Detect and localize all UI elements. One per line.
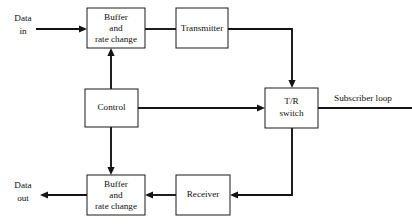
- label-subscriber-loop-text: Subscriber loop: [334, 93, 392, 103]
- label-data-in-line1: Data: [14, 13, 31, 23]
- node-control-label: Control: [97, 102, 126, 112]
- arrowhead-right: [257, 104, 265, 111]
- label-data-out-line1: Data: [14, 180, 31, 190]
- node-transmitter-label: Transmitter: [181, 23, 224, 33]
- edge-transmitter-to-tr-switch: [228, 29, 296, 88]
- node-transmitter[interactable]: Transmitter: [176, 8, 228, 48]
- label-data-in: Data in: [14, 13, 31, 36]
- node-receiver-label: Receiver: [187, 189, 220, 199]
- edge-data-in-to-buffer-top: [36, 25, 87, 32]
- node-buffer-top[interactable]: Buffer and rate change: [87, 8, 145, 48]
- arrowhead-left: [230, 191, 238, 198]
- arrowhead-left: [145, 191, 153, 198]
- arrowhead-down: [107, 167, 114, 175]
- edge-tr-switch-to-receiver: [230, 128, 292, 199]
- label-data-out: Data out: [14, 180, 31, 203]
- label-subscriber-loop: Subscriber loop: [334, 93, 392, 103]
- block-diagram: Buffer and rate change Transmitter Contr…: [0, 0, 412, 224]
- node-tr-switch-label-line1: T/R: [284, 96, 299, 106]
- edge-receiver-to-buffer-bottom: [145, 191, 176, 198]
- edge-buffer-bottom-to-data-out: [40, 191, 87, 198]
- arrowhead-down: [288, 80, 295, 88]
- node-buffer-bottom-label-line1: Buffer: [104, 179, 128, 189]
- node-tr-switch-label-line2: switch: [280, 108, 304, 118]
- edge-control-to-tr-switch: [138, 104, 265, 111]
- arrowhead-left: [40, 191, 48, 198]
- label-data-in-line2: in: [19, 26, 27, 36]
- edge-control-to-buffer-bottom: [107, 127, 114, 175]
- node-buffer-top-label-line2: and: [109, 23, 123, 33]
- node-control[interactable]: Control: [85, 89, 138, 127]
- diagram-canvas: Buffer and rate change Transmitter Contr…: [0, 0, 412, 224]
- node-tr-switch[interactable]: T/R switch: [265, 88, 318, 128]
- edge-control-to-buffer-top: [107, 48, 114, 89]
- label-data-out-line2: out: [17, 193, 29, 203]
- node-receiver[interactable]: Receiver: [176, 175, 230, 215]
- node-buffer-bottom-label-line3: rate change: [95, 201, 137, 211]
- node-buffer-top-label-line3: rate change: [95, 34, 137, 44]
- arrowhead-right: [79, 25, 87, 32]
- node-buffer-bottom[interactable]: Buffer and rate change: [87, 175, 145, 215]
- arrowhead-up: [107, 48, 114, 56]
- node-buffer-bottom-label-line2: and: [109, 190, 123, 200]
- node-buffer-top-label-line1: Buffer: [104, 12, 128, 22]
